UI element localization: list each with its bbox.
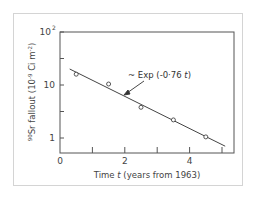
x-axis-ticks: [92, 147, 222, 153]
x-tick-label-0: 0: [57, 156, 63, 166]
x-axis-title: Time t (years from 1963): [93, 170, 200, 180]
data-point: [139, 105, 143, 109]
annotation-arrow-icon: [124, 81, 144, 95]
x-tick-label-4: 4: [187, 156, 193, 166]
y-axis-title: 90Sr fallout (10-9 Ci m-2): [27, 43, 37, 142]
y-tick-label-1: 1: [49, 133, 55, 143]
y-tick-label-100: 10: [40, 27, 52, 37]
plot-area: [60, 32, 234, 153]
fit-annotation: ~ Exp (-0·76 t): [128, 70, 191, 80]
y-axis-ticks: [60, 32, 64, 138]
fit-line: [70, 69, 226, 146]
data-point: [204, 135, 208, 139]
y-tick-label-100-exp: 2: [52, 24, 56, 31]
chart-svg: 1 10 10 2 0 2 4 Time t (years from 1963)…: [0, 0, 255, 199]
data-points: [74, 72, 208, 139]
data-point: [107, 82, 111, 86]
data-point: [74, 72, 78, 76]
x-tick-label-2: 2: [122, 156, 128, 166]
data-point: [171, 118, 175, 122]
y-tick-label-10: 10: [44, 80, 56, 90]
